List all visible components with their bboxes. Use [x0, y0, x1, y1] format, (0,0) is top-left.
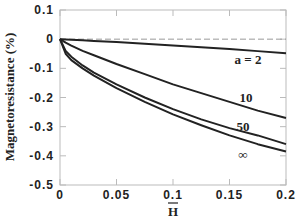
x-tick-label: 0.05	[103, 188, 130, 202]
y-tick-label: -0.4	[29, 149, 54, 163]
axis-ticks: 0.10-0.1-0.2-0.3-0.4-0.500.050.10.150.2	[29, 3, 296, 202]
series-label: a = 2	[235, 52, 262, 67]
y-tick-label: 0.1	[34, 3, 54, 17]
x-axis-label: H	[168, 204, 178, 219]
y-tick-label: -0.1	[29, 61, 54, 75]
x-tick-label: 0.15	[216, 188, 243, 202]
y-tick-label: -0.3	[29, 120, 54, 134]
series-label: 50	[237, 119, 250, 134]
magnetoresistance-chart: 0.10-0.1-0.2-0.3-0.4-0.500.050.10.150.2 …	[0, 0, 297, 224]
series-label: ∞	[238, 147, 247, 162]
y-tick-label: -0.2	[29, 91, 54, 105]
y-tick-label: -0.5	[29, 178, 54, 192]
x-tick-label: 0.2	[276, 188, 296, 202]
y-axis-label: Magnetoresistance (%)	[2, 33, 17, 162]
x-tick-label: 0.1	[163, 188, 183, 202]
x-tick-label: 0	[56, 188, 64, 202]
series-label: 10	[240, 90, 253, 105]
y-tick-label: 0	[46, 32, 54, 46]
